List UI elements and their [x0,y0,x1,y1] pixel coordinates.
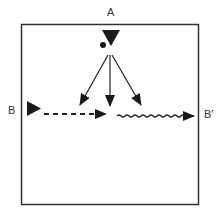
source-triangle-b-icon [27,101,41,116]
fan-arrow-left [80,55,108,105]
diagram-canvas [0,0,224,215]
source-dot-icon [100,42,106,48]
wavy-arrow [117,115,194,117]
fan-arrow-right [112,55,141,105]
